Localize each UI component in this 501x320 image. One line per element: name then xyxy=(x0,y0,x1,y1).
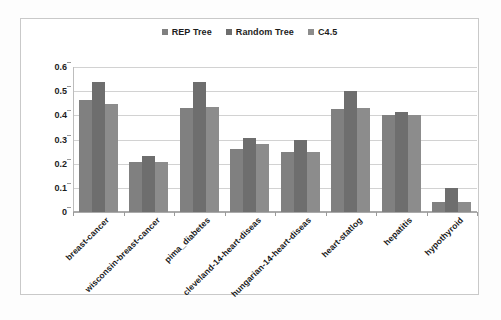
bar-group xyxy=(174,67,225,212)
x-axis-category-labels: breast-cancerwisconsin-breast-cancerpima… xyxy=(73,215,477,315)
legend-swatch-icon xyxy=(308,29,314,35)
bar-group xyxy=(275,67,326,212)
bar[interactable] xyxy=(206,107,219,212)
y-axis-tick-label: 0.4 xyxy=(54,110,67,120)
y-axis-tick-mark xyxy=(67,159,71,160)
bar[interactable] xyxy=(243,138,256,212)
legend-item: Random Tree xyxy=(226,27,294,37)
y-axis-tick-mark xyxy=(67,183,71,184)
chart-page: REP TreeRandom TreeC4.5 00.10.20.30.40.5… xyxy=(0,0,501,320)
x-axis-category-label: hepatitis xyxy=(382,215,414,247)
x-axis-category-label: pima_diabetes xyxy=(162,215,212,265)
bar[interactable] xyxy=(256,144,269,212)
bar[interactable] xyxy=(395,112,408,212)
bar[interactable] xyxy=(357,108,370,212)
y-axis-tick-mark xyxy=(67,207,71,208)
legend-label: Random Tree xyxy=(236,27,294,37)
bar-group xyxy=(376,67,427,212)
bar-group xyxy=(427,67,478,212)
y-axis-tick-label: 0.6 xyxy=(54,62,67,72)
bar[interactable] xyxy=(142,156,155,212)
plot-area xyxy=(73,67,477,212)
bar[interactable] xyxy=(344,91,357,212)
chart-legend: REP TreeRandom TreeC4.5 xyxy=(21,27,478,37)
y-axis-tick-mark xyxy=(67,86,71,87)
bar[interactable] xyxy=(432,202,445,212)
bar[interactable] xyxy=(155,162,168,212)
y-axis-tick-label: 0.3 xyxy=(54,135,67,145)
bar[interactable] xyxy=(281,152,294,212)
bar[interactable] xyxy=(458,202,471,212)
bar[interactable] xyxy=(230,149,243,212)
y-axis-tick-label: 0.5 xyxy=(54,86,67,96)
bar[interactable] xyxy=(92,82,105,213)
bar[interactable] xyxy=(294,140,307,213)
legend-item: REP Tree xyxy=(162,27,212,37)
bar-groups xyxy=(73,67,477,212)
y-axis-tick-mark xyxy=(67,110,71,111)
y-axis-tick-mark xyxy=(67,62,71,63)
bar-group xyxy=(124,67,175,212)
y-axis-tick-label: 0.1 xyxy=(54,183,67,193)
bar[interactable] xyxy=(129,162,142,212)
bar-group xyxy=(326,67,377,212)
bar[interactable] xyxy=(105,104,118,212)
bar[interactable] xyxy=(193,82,206,213)
bar-group xyxy=(73,67,124,212)
x-axis-category-label: breast-cancer xyxy=(64,215,111,262)
bar[interactable] xyxy=(445,188,458,212)
x-axis-tick-mark xyxy=(477,212,478,216)
bar[interactable] xyxy=(307,152,320,212)
legend-label: REP Tree xyxy=(172,27,212,37)
y-axis-tick-mark xyxy=(67,135,71,136)
y-axis-tick-labels: 00.10.20.30.40.50.6 xyxy=(43,67,71,212)
bar[interactable] xyxy=(382,115,395,212)
bar[interactable] xyxy=(331,109,344,212)
bar[interactable] xyxy=(408,115,421,212)
legend-item: C4.5 xyxy=(308,27,337,37)
bar-group xyxy=(225,67,276,212)
bar[interactable] xyxy=(79,100,92,212)
x-axis-category-label: hypothyroid xyxy=(422,215,465,258)
y-axis-tick-label: 0.2 xyxy=(54,159,67,169)
x-axis-category-label: heart-statlog xyxy=(320,215,364,259)
legend-swatch-icon xyxy=(226,29,232,35)
legend-swatch-icon xyxy=(162,29,168,35)
legend-label: C4.5 xyxy=(318,27,337,37)
bar[interactable] xyxy=(180,108,193,212)
y-axis-tick-label: 0 xyxy=(62,207,67,217)
chart-frame: REP TreeRandom TreeC4.5 00.10.20.30.40.5… xyxy=(20,18,479,295)
